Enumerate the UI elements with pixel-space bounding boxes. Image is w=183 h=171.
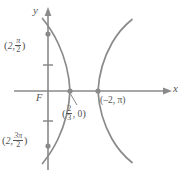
x-axis-label: x [173,83,178,94]
point-label-vertex-right: (–2, π) [100,96,125,106]
polar-conic-figure: y x F (2, π 2 ) (2, 3π 2 ) ( 2 3 , 0) (–… [0,0,183,171]
fraction-denominator-top-left: 2 [15,46,21,54]
fraction-numerator-bottom-left: 3π [13,132,23,140]
curve-left-branch [43,19,71,92]
fraction-theta-bottom-left: 3π 2 [13,132,23,149]
fraction-denominator-bottom-left: 2 [15,141,21,149]
paren-close-bottom-left: ) [24,134,28,146]
theta-value-vertex-left: , 0 [73,109,83,119]
paren-close-vertex-left: ) [82,107,86,119]
fraction-theta-top-left: π 2 [15,37,21,54]
point-vertex-left [67,88,72,93]
point-label-vertex-left: ( 2 3 , 0) [62,106,86,123]
paren-open-vertex-left: ( [62,107,66,119]
fraction-numerator-top-left: π [15,37,21,45]
point-latus-lower [45,143,50,148]
focus-label: F [36,93,42,104]
y-axis-arrowhead [45,7,52,16]
fraction-numerator-vertex-left: 2 [66,105,72,113]
curve-left-branch-lower [43,91,71,164]
fraction-denominator-vertex-left: 3 [66,114,72,122]
point-latus-upper [45,31,50,36]
paren-close-top-left: ) [22,39,26,51]
radius-value-bottom-left: 2, [6,136,13,146]
point-label-bottom-left: (2, 3π 2 ) [2,133,27,150]
curve-right-branch-upper [98,20,132,92]
x-axis-arrowhead [163,88,172,95]
axes-group [14,7,172,170]
fraction-radius-vertex-left: 2 3 [66,105,72,122]
point-vertex-right [95,88,100,93]
point-label-top-left: (2, π 2 ) [4,38,25,55]
leader-line-vertex-left [71,94,78,105]
y-axis-label: y [33,5,38,16]
radius-value-top-left: 2, [8,41,15,51]
